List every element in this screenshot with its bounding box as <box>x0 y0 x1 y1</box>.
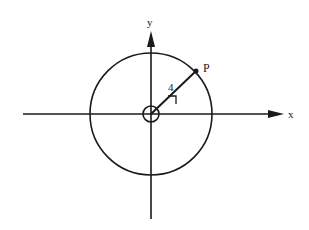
x-axis-label: x <box>288 108 294 120</box>
polar-diagram: x y 4 P <box>0 0 309 230</box>
x-axis-arrow-icon <box>268 110 284 118</box>
radius-label: 4 <box>168 81 174 93</box>
radius-segment <box>151 71 196 114</box>
point-p-label: P <box>203 61 210 75</box>
y-axis-arrow-icon <box>147 31 155 47</box>
point-p-dot <box>194 69 199 74</box>
y-axis-label: y <box>147 16 153 28</box>
